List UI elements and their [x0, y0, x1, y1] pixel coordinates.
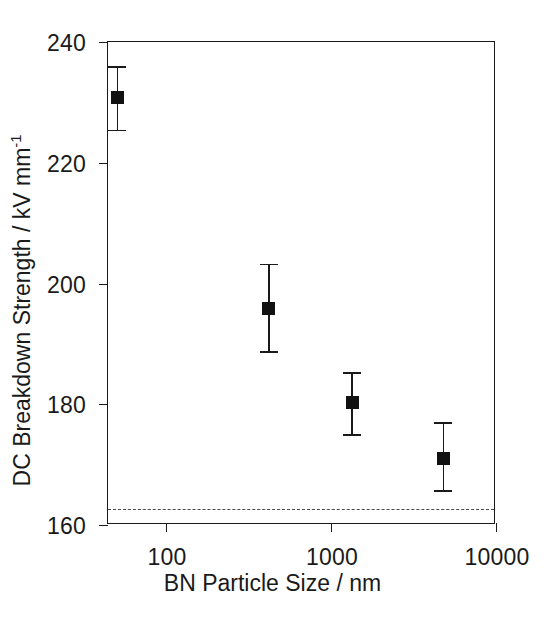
data-marker-2 — [262, 302, 275, 315]
error-bar-cap-top-3 — [343, 372, 361, 374]
x-tick-1000: 1000 — [331, 523, 332, 532]
y-tick-label-200: 200 — [47, 271, 86, 298]
x-tick-label-100: 100 — [148, 544, 187, 571]
y-tick-180: 180 — [99, 404, 108, 405]
y-axis-title-superscript: -1 — [8, 135, 24, 148]
y-tick-240: 240 — [99, 42, 108, 43]
x-tick-10000: 10000 — [496, 523, 497, 532]
y-axis-title-text: DC Breakdown Strength / kV mm — [9, 148, 35, 487]
y-tick-label-240: 240 — [47, 30, 86, 57]
y-tick-220: 220 — [99, 163, 108, 164]
y-tick-label-180: 180 — [47, 392, 86, 419]
data-marker-1 — [111, 91, 124, 104]
error-bar-cap-bottom-4 — [434, 490, 452, 492]
x-tick-label-10000: 10000 — [465, 544, 530, 571]
y-tick-label-160: 160 — [47, 513, 86, 540]
data-marker-3 — [346, 396, 359, 409]
error-bar-cap-top-4 — [434, 422, 452, 424]
error-bar-cap-top-1 — [108, 66, 126, 68]
y-axis-title: DC Breakdown Strength / kV mm-1 — [0, 0, 44, 621]
x-tick-100: 100 — [166, 523, 167, 532]
error-bar-cap-bottom-2 — [260, 351, 278, 353]
error-bar-cap-bottom-3 — [343, 434, 361, 436]
x-tick-label-1000: 1000 — [306, 544, 358, 571]
y-tick-label-220: 220 — [47, 150, 86, 177]
y-tick-160: 160 — [99, 525, 108, 526]
error-bar-cap-bottom-1 — [108, 130, 126, 132]
reference-dashed-line — [108, 509, 494, 510]
figure-container: DC Breakdown Strength / kV mm-1 240 220 … — [0, 0, 545, 621]
data-marker-4 — [437, 452, 450, 465]
error-bar-cap-top-2 — [260, 264, 278, 266]
y-tick-200: 200 — [99, 284, 108, 285]
plot-area: 240 220 200 180 160 100 1000 10000 — [107, 41, 495, 524]
x-axis-title: BN Particle Size / nm — [0, 570, 545, 597]
